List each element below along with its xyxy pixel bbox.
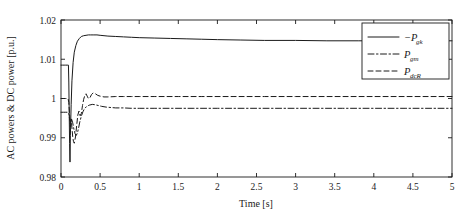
x-tick-label-6: 3 <box>293 182 298 192</box>
y-tick-label-0: 0.98 <box>39 173 56 183</box>
x-tick-label-1: 0.5 <box>94 182 106 192</box>
legend-label-sub-2: dcR <box>410 72 422 80</box>
y-tick-label-1: 0.99 <box>39 133 56 143</box>
figure-container: 00.511.522.533.544.55 0.980.9911.011.02 … <box>0 0 469 221</box>
y-axis-title: AC powers & DC power [p.u.] <box>5 36 16 160</box>
x-tick-label-8: 4 <box>371 182 376 192</box>
chart-legend: −PgkPgmPdcR <box>362 23 449 80</box>
legend-label-sub-1: gm <box>410 55 419 63</box>
x-tick-label-9: 4.5 <box>407 182 419 192</box>
x-tick-label-10: 5 <box>450 182 455 192</box>
x-axis-tick-labels: 00.511.522.533.544.55 <box>59 182 455 192</box>
x-axis-title: Time [s] <box>239 198 273 209</box>
x-tick-label-5: 2.5 <box>251 182 263 192</box>
x-tick-label-0: 0 <box>59 182 64 192</box>
series-line-pdcr <box>61 93 452 143</box>
x-tick-label-4: 2 <box>215 182 220 192</box>
series-line-pgm <box>61 104 452 135</box>
x-tick-label-7: 3.5 <box>329 182 341 192</box>
y-axis-tick-labels: 0.980.9911.011.02 <box>39 16 56 183</box>
x-tick-label-3: 1.5 <box>172 182 184 192</box>
y-tick-label-4: 1.02 <box>39 16 56 26</box>
y-tick-label-2: 1 <box>51 94 56 104</box>
x-tick-label-2: 1 <box>137 182 142 192</box>
y-tick-label-3: 1.01 <box>39 55 56 65</box>
legend-label-sub-0: gk <box>416 38 424 46</box>
line-chart: 00.511.522.533.544.55 0.980.9911.011.02 … <box>0 0 469 221</box>
